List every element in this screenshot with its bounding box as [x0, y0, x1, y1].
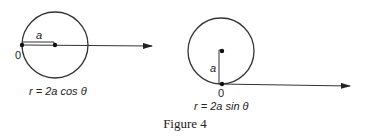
origin-point: [20, 43, 24, 47]
cos-circle-diagram: a 0 r = 2a cos θ: [15, 12, 152, 97]
polar-axis-arrow: [219, 84, 350, 86]
figure-caption: Figure 4: [163, 116, 207, 131]
sin-circle-diagram: a 0 r = 2a sin θ: [188, 18, 350, 112]
origin-point: [220, 82, 224, 86]
center-point: [53, 43, 57, 47]
radius-label: a: [36, 29, 42, 41]
radius-label: a: [210, 62, 216, 74]
sin-equation: r = 2a sin θ: [194, 100, 249, 112]
center-point: [220, 49, 224, 53]
cos-equation: r = 2a cos θ: [29, 85, 87, 97]
origin-label: 0: [218, 87, 224, 99]
figure-4-diagram: a 0 r = 2a cos θ a 0 r = 2a sin θ Figure…: [0, 0, 370, 140]
polar-axis-arrow: [22, 45, 152, 46]
origin-label: 0: [15, 49, 21, 61]
